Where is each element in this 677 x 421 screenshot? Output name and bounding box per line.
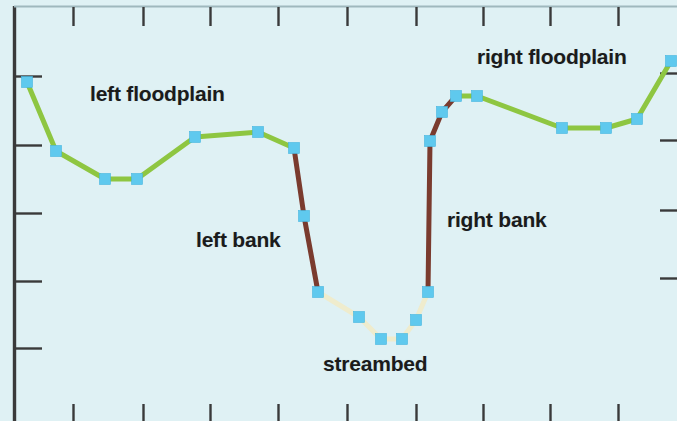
- data-point-marker: [51, 146, 62, 157]
- data-point-marker: [472, 91, 483, 102]
- data-point-marker: [423, 287, 434, 298]
- annotation-left-floodplain: left floodplain: [90, 82, 225, 106]
- data-point-marker: [100, 174, 111, 185]
- data-point-marker: [354, 312, 365, 323]
- annotation-right-floodplain: right floodplain: [477, 45, 627, 69]
- data-point-marker: [132, 174, 143, 185]
- data-point-marker: [289, 143, 300, 154]
- annotation-left-bank: left bank: [196, 228, 281, 252]
- data-point-marker: [451, 91, 462, 102]
- data-point-marker: [411, 315, 422, 326]
- annotation-streambed: streambed: [323, 352, 427, 376]
- data-point-marker: [632, 114, 643, 125]
- annotation-right-bank: right bank: [447, 208, 547, 232]
- data-point-marker: [601, 123, 612, 134]
- data-point-marker: [313, 287, 324, 298]
- data-point-marker: [425, 136, 436, 147]
- data-point-marker: [299, 211, 310, 222]
- data-point-marker: [376, 334, 387, 345]
- data-point-marker: [397, 334, 408, 345]
- data-point-marker: [557, 123, 568, 134]
- data-point-marker: [22, 77, 33, 88]
- data-point-marker: [190, 132, 201, 143]
- data-point-marker: [666, 56, 677, 67]
- data-point-marker: [437, 107, 448, 118]
- data-point-marker: [253, 127, 264, 138]
- stream-cross-section-figure: left floodplainright floodplainleft bank…: [0, 0, 677, 421]
